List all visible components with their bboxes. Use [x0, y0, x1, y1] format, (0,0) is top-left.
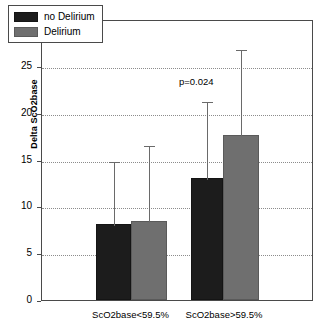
error-bar-cap	[144, 146, 155, 147]
bar-delirium	[131, 221, 167, 300]
y-axis-tick-label: 15	[8, 155, 32, 165]
p-value-annotation: p=0.024	[179, 76, 214, 87]
x-axis-tick-label: ScO2base>59.5%	[179, 309, 269, 320]
plot-area: p=0.024	[41, 20, 313, 301]
error-bar-line	[207, 102, 208, 181]
legend-item-no-delirium: no Delirium	[14, 10, 95, 23]
bar-no-delirium	[191, 178, 223, 300]
gridline	[42, 115, 312, 116]
y-axis-tick-label: 0	[8, 295, 32, 305]
gridline	[42, 162, 312, 163]
error-bar-line	[114, 162, 115, 226]
error-bar-line	[241, 50, 242, 137]
bar-no-delirium	[96, 224, 131, 300]
gridline	[42, 255, 312, 256]
error-bar-cap	[202, 102, 213, 103]
gridline	[42, 68, 312, 69]
chart-legend: no Delirium Delirium	[8, 5, 103, 43]
y-axis-tick-mark	[37, 301, 41, 302]
error-bar-line	[149, 146, 150, 224]
legend-swatch-icon	[14, 27, 38, 37]
y-axis-tick-label: 25	[8, 61, 32, 71]
error-bar-cap	[109, 162, 120, 163]
legend-item-label: Delirium	[44, 27, 81, 37]
error-bar-cap	[236, 50, 247, 51]
y-axis-tick-label: 5	[8, 248, 32, 258]
gridline	[42, 208, 312, 209]
legend-item-label: no Delirium	[44, 12, 95, 22]
bar-chart: Delta ScO2base 051015202530 p=0.024 ScO2…	[0, 0, 322, 328]
y-axis-tick-label: 20	[8, 108, 32, 118]
legend-item-delirium: Delirium	[14, 25, 95, 38]
x-axis-tick-label: ScO2base<59.5%	[86, 309, 176, 320]
y-axis-tick-label: 10	[8, 201, 32, 211]
bar-delirium	[223, 135, 259, 300]
legend-swatch-icon	[14, 12, 38, 22]
